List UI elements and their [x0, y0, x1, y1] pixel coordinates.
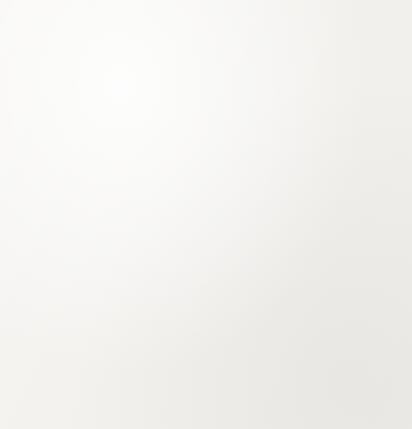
coordinate-plane-figure: [0, 0, 412, 429]
coordinate-grid-graphic: [0, 0, 412, 429]
